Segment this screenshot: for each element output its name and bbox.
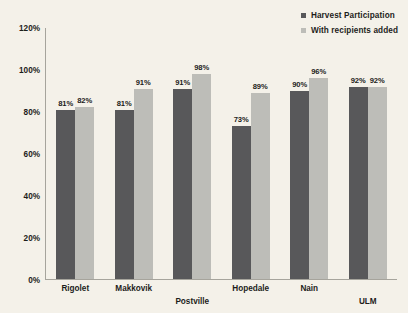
bar-value-label: 81% <box>58 99 73 108</box>
x-axis-category-label: Rigolet <box>61 284 89 293</box>
bar-slot: 81% <box>56 28 75 279</box>
bar-value-label: 91% <box>175 78 190 87</box>
bar[interactable]: 89% <box>251 93 270 279</box>
bar-slot: 73% <box>232 28 251 279</box>
bar[interactable]: 92% <box>368 87 387 279</box>
x-axis-label-cell: Nain <box>280 284 339 313</box>
x-axis-label-cell: Makkovik <box>105 284 164 313</box>
legend-label-harvest-participation: Harvest Participation <box>311 11 395 20</box>
bar[interactable]: 90% <box>290 91 309 279</box>
bar[interactable]: 81% <box>56 110 75 279</box>
bar-group: 91%98% <box>163 28 222 279</box>
x-axis-label-cell: Postville <box>163 284 222 313</box>
bar-slot: 89% <box>251 28 270 279</box>
bar-value-label: 82% <box>77 96 92 105</box>
bar[interactable]: 91% <box>173 89 192 279</box>
bar-value-label: 89% <box>253 82 268 91</box>
bar-value-label: 92% <box>370 76 385 85</box>
y-axis-tick-label: 80% <box>24 108 40 117</box>
bar-slot: 91% <box>134 28 153 279</box>
y-axis-tick-label: 100% <box>19 66 40 75</box>
x-axis-label-cell: ULM <box>339 284 398 313</box>
bar-slot: 98% <box>192 28 211 279</box>
bar-groups: 81%82%81%91%91%98%73%89%90%96%92%92% <box>46 28 397 279</box>
plot-area: 0%20%40%60%80%100%120% 81%82%81%91%91%98… <box>45 28 397 280</box>
bar[interactable]: 92% <box>349 87 368 279</box>
bar-value-label: 96% <box>311 67 326 76</box>
x-axis-category-label: Postville <box>175 297 209 306</box>
bar[interactable]: 91% <box>134 89 153 279</box>
bar[interactable]: 96% <box>309 78 328 279</box>
x-axis-category-label: ULM <box>359 297 377 306</box>
y-axis-tick-label: 60% <box>24 150 40 159</box>
bar-slot: 81% <box>115 28 134 279</box>
bar[interactable]: 82% <box>75 107 94 279</box>
bar[interactable]: 73% <box>232 126 251 279</box>
bar-slot: 91% <box>173 28 192 279</box>
y-axis-tick-label: 20% <box>24 234 40 243</box>
bar-value-label: 92% <box>351 76 366 85</box>
y-axis-tick-label: 120% <box>19 24 40 33</box>
bar-value-label: 73% <box>234 115 249 124</box>
x-axis-category-label: Hopedale <box>232 284 269 293</box>
bar-slot: 90% <box>290 28 309 279</box>
y-axis-tick-label: 40% <box>24 192 40 201</box>
bar[interactable]: 98% <box>192 74 211 279</box>
x-axis-label-cell: Rigolet <box>46 284 105 313</box>
bar-group: 81%82% <box>46 28 105 279</box>
x-axis-label-cell: Hopedale <box>222 284 281 313</box>
bar-slot: 92% <box>368 28 387 279</box>
bar-value-label: 90% <box>292 80 307 89</box>
bar-chart: Harvest Participation With recipients ad… <box>0 0 408 313</box>
bar-group: 73%89% <box>222 28 281 279</box>
bar-value-label: 91% <box>136 78 151 87</box>
bar-group: 90%96% <box>280 28 339 279</box>
legend-item-harvest-participation: Harvest Participation <box>301 11 398 20</box>
bar-slot: 92% <box>349 28 368 279</box>
x-axis-category-label: Nain <box>300 284 318 293</box>
bar-group: 81%91% <box>105 28 164 279</box>
legend-swatch-icon-harvest-participation <box>301 13 306 18</box>
bar-slot: 82% <box>75 28 94 279</box>
bar-value-label: 81% <box>117 99 132 108</box>
y-axis-tick-label: 0% <box>28 276 40 285</box>
bar-value-label: 98% <box>194 63 209 72</box>
bar-slot: 96% <box>309 28 328 279</box>
bar[interactable]: 81% <box>115 110 134 279</box>
x-axis-labels: RigoletMakkovikPostvilleHopedaleNainULM <box>46 284 397 313</box>
x-axis-category-label: Makkovik <box>115 284 152 293</box>
bar-group: 92%92% <box>339 28 398 279</box>
x-axis-line <box>45 279 397 280</box>
